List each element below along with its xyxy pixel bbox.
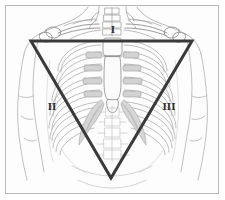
label-landmark-ii: II xyxy=(44,101,60,112)
figure-container: I II III xyxy=(0,0,225,200)
label-landmark-iii: III xyxy=(160,101,178,112)
label-landmark-i: I xyxy=(106,24,120,35)
